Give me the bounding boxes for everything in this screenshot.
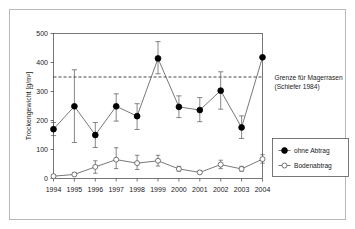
data-point (176, 104, 182, 110)
x-axis-tick-label: 2000 (171, 186, 187, 193)
legend-label: Bodenabtrag (294, 162, 332, 170)
line-chart: 0100200300400500199419951996199719981999… (0, 0, 355, 229)
data-point (156, 158, 161, 163)
annotation-line-2: (Schiefer 1984) (275, 83, 320, 91)
data-point (134, 113, 140, 119)
x-axis-tick-label: 1998 (129, 186, 145, 193)
data-point (176, 166, 181, 171)
data-point (114, 157, 119, 162)
x-axis-tick-label: 1995 (67, 186, 83, 193)
data-point (239, 166, 244, 171)
data-point (92, 132, 98, 138)
data-point (239, 125, 245, 131)
data-point (260, 54, 266, 60)
legend-marker (282, 163, 287, 168)
series-bodenabtrag (51, 148, 265, 179)
x-axis-tick-label: 2002 (213, 186, 229, 193)
data-point (197, 107, 203, 113)
legend-marker (282, 148, 288, 154)
y-axis-tick-label: 400 (36, 59, 48, 66)
legend: ohne AbtragBodenabtrag (273, 139, 349, 177)
data-point (72, 172, 77, 177)
annotation-line-1: Grenze für Magerrasen (275, 74, 343, 82)
y-axis-tick-label: 500 (36, 30, 48, 37)
chart-figure: 0100200300400500199419951996199719981999… (0, 0, 355, 229)
data-point (93, 164, 98, 169)
y-axis-tick-label: 0 (44, 175, 48, 182)
y-axis-tick-label: 100 (36, 146, 48, 153)
series-ohne-abtrag (51, 42, 266, 148)
y-axis-tick-label: 300 (36, 88, 48, 95)
x-axis-tick-label: 2001 (192, 186, 208, 193)
x-axis-tick-label: 1994 (46, 186, 62, 193)
data-point (260, 157, 265, 162)
data-point (135, 161, 140, 166)
x-axis-tick-label: 1996 (88, 186, 104, 193)
x-axis-tick-label: 2004 (255, 186, 271, 193)
data-point (218, 88, 224, 94)
data-point (155, 56, 161, 62)
data-point (197, 170, 202, 175)
legend-box (273, 139, 349, 177)
data-point (72, 103, 78, 109)
y-axis-title: Trockengewicht [g/m²] (25, 72, 33, 141)
y-axis-tick-label: 200 (36, 117, 48, 124)
data-point (51, 174, 56, 179)
x-axis-tick-label: 1997 (108, 186, 124, 193)
x-axis-tick-label: 2003 (234, 186, 250, 193)
data-point (51, 126, 57, 132)
data-point (218, 162, 223, 167)
data-point (113, 103, 119, 109)
legend-label: ohne Abtrag (294, 147, 330, 155)
x-axis-tick-label: 1999 (150, 186, 166, 193)
